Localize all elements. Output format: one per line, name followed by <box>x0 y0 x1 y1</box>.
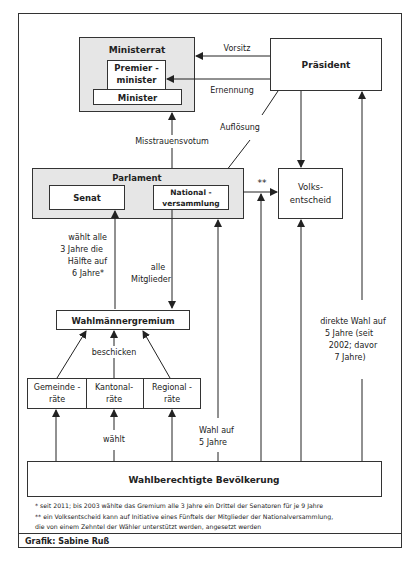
regionalraete-label-2: räte <box>164 395 180 404</box>
praesident-box: Präsident <box>271 39 382 91</box>
gemeinderaete-label-1: Gemeinde - <box>34 383 81 392</box>
regional-beschicken-arrow <box>143 331 170 378</box>
double-asterisk-marker: ** <box>258 178 268 188</box>
wahlmaennergremium-label: Wahlmännergremium <box>71 316 174 326</box>
wahl-nv-label-1: Wahl auf <box>199 426 234 435</box>
volksentscheid-box: Volks- entscheid <box>279 169 343 219</box>
senat-wahl-label-3: Hälfte auf <box>68 257 107 266</box>
direkte-wahl-label-2: 5 Jahre (seit <box>325 329 373 338</box>
direkte-wahl-label-3: 2002; davor <box>329 341 378 350</box>
alle-mitglieder-label-2: Mitglieder <box>131 275 172 284</box>
nationalversammlung-box: National - versammlung <box>154 186 229 210</box>
diagram-canvas: Ministerrat Premier - minister Minister … <box>0 0 419 564</box>
minister-label: Minister <box>118 93 158 103</box>
bevoelkerung-label: Wahlberechtigte Bevölkerung <box>128 475 279 485</box>
kantonalraete-label-2: räte <box>106 395 122 404</box>
beschicken-label: beschicken <box>92 348 137 357</box>
ernennung-label: Ernennung <box>210 86 254 95</box>
premierminister-label-2: minister <box>117 75 158 85</box>
footnote-2-line-1: ** ein Volksentscheid kann auf Initiativ… <box>35 513 333 521</box>
volksentscheid-label-1: Volks- <box>298 182 323 192</box>
senat-wahl-label-1: wählt alle <box>68 233 107 242</box>
nationalversammlung-label-1: National - <box>170 188 211 197</box>
vorsitz-label: Vorsitz <box>224 44 251 53</box>
ministerrat-label: Ministerrat <box>109 45 166 55</box>
gemeinde-beschicken-arrow <box>57 331 86 378</box>
volksentscheid-label-2: entscheid <box>290 195 331 205</box>
misstrauensvotum-label: Misstrauensvotum <box>135 137 209 146</box>
direkte-wahl-label-1: direkte Wahl auf <box>320 317 386 326</box>
footnote-1: * seit 2011; bis 2003 wählte das Gremium… <box>35 502 323 510</box>
senat-wahl-label-4: 6 Jahre* <box>72 269 104 278</box>
bevoelkerung-box: Wahlberechtigte Bevölkerung <box>28 462 382 497</box>
parlament-group: Parlament Senat National - versammlung <box>33 169 244 219</box>
premierminister-box: Premier - minister <box>108 61 166 91</box>
ministerrat-group: Ministerrat Premier - minister Minister <box>80 38 195 112</box>
senat-wahl-label-2: 3 Jahre die <box>60 245 103 254</box>
direkte-wahl-label-4: 7 Jahre) <box>334 353 365 362</box>
senat-label: Senat <box>73 193 101 203</box>
alle-mitglieder-label-1: alle <box>151 263 165 272</box>
waehlt-label: wählt <box>103 435 125 444</box>
wahl-nv-label-2: 5 Jahre <box>199 438 227 447</box>
wahlmaennergremium-box: Wahlmännergremium <box>57 311 190 330</box>
kantonalraete-label-1: Kantonal- <box>95 383 133 392</box>
footnote-2-line-2: die von einem Zehntel der Wähler unterst… <box>35 523 261 531</box>
nationalversammlung-label-2: versammlung <box>162 199 219 208</box>
regionalraete-label-1: Regional - <box>152 383 192 392</box>
senat-box: Senat <box>50 186 125 210</box>
gemeinderaete-label-2: räte <box>49 395 65 404</box>
premierminister-label-1: Premier - <box>114 63 159 73</box>
aufloesung-arrow-top <box>262 91 278 115</box>
parlament-label: Parlament <box>112 173 161 183</box>
praesident-label: Präsident <box>302 60 352 70</box>
graphic-credit: Grafik: Sabine Ruß <box>25 537 110 546</box>
aufloesung-label: Auflösung <box>220 123 260 132</box>
councils-row: Gemeinde - räte Kantonal- räte Regional … <box>28 378 201 409</box>
minister-box: Minister <box>94 90 182 105</box>
